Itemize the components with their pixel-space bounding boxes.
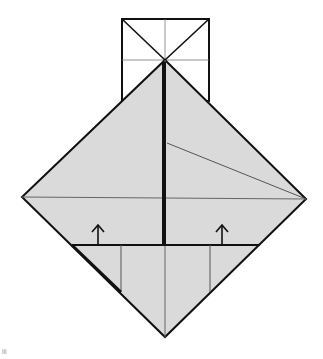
caption: iii (2, 348, 7, 355)
center-thick-edge (162, 62, 166, 244)
origami-diagram (0, 0, 323, 359)
diamond-body (22, 60, 306, 337)
